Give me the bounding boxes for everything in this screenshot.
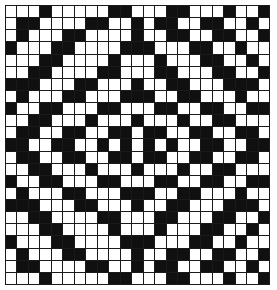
empty-cell <box>98 30 108 41</box>
empty-cell <box>63 224 73 235</box>
empty-cell <box>236 212 246 223</box>
filled-cell <box>213 103 223 114</box>
empty-cell <box>190 200 200 211</box>
empty-cell <box>6 261 16 272</box>
empty-cell <box>40 91 50 102</box>
empty-cell <box>86 103 96 114</box>
filled-cell <box>224 249 234 260</box>
filled-cell <box>52 103 62 114</box>
empty-cell <box>259 42 269 53</box>
empty-cell <box>236 18 246 29</box>
filled-cell <box>224 79 234 90</box>
empty-cell <box>155 164 165 175</box>
empty-cell <box>75 139 85 150</box>
empty-cell <box>224 42 234 53</box>
filled-cell <box>144 236 154 247</box>
empty-cell <box>40 152 50 163</box>
filled-cell <box>6 200 16 211</box>
filled-cell <box>247 261 257 272</box>
filled-cell <box>40 164 50 175</box>
filled-cell <box>247 139 257 150</box>
empty-cell <box>167 42 177 53</box>
empty-cell <box>63 55 73 66</box>
filled-cell <box>213 30 223 41</box>
empty-cell <box>190 176 200 187</box>
filled-cell <box>132 261 142 272</box>
filled-cell <box>155 55 165 66</box>
empty-cell <box>121 67 131 78</box>
empty-cell <box>40 249 50 260</box>
empty-cell <box>167 188 177 199</box>
filled-cell <box>132 79 142 90</box>
empty-cell <box>144 18 154 29</box>
filled-cell <box>40 55 50 66</box>
empty-cell <box>259 91 269 102</box>
filled-cell <box>213 55 223 66</box>
empty-cell <box>98 164 108 175</box>
empty-cell <box>17 236 27 247</box>
filled-cell <box>155 18 165 29</box>
filled-cell <box>178 249 188 260</box>
filled-cell <box>121 139 131 150</box>
filled-cell <box>86 18 96 29</box>
empty-cell <box>178 261 188 272</box>
empty-cell <box>259 115 269 126</box>
empty-cell <box>178 42 188 53</box>
empty-cell <box>132 139 142 150</box>
empty-cell <box>109 30 119 41</box>
filled-cell <box>167 18 177 29</box>
empty-cell <box>201 200 211 211</box>
empty-cell <box>224 55 234 66</box>
filled-cell <box>259 6 269 17</box>
empty-cell <box>52 6 62 17</box>
empty-cell <box>190 224 200 235</box>
empty-cell <box>201 164 211 175</box>
empty-cell <box>109 164 119 175</box>
empty-cell <box>132 152 142 163</box>
empty-cell <box>201 115 211 126</box>
filled-cell <box>247 79 257 90</box>
filled-cell <box>75 152 85 163</box>
filled-cell <box>201 18 211 29</box>
empty-cell <box>40 188 50 199</box>
filled-cell <box>236 236 246 247</box>
empty-cell <box>121 261 131 272</box>
filled-cell <box>121 188 131 199</box>
empty-cell <box>98 273 108 284</box>
filled-cell <box>132 249 142 260</box>
empty-cell <box>144 164 154 175</box>
empty-cell <box>6 224 16 235</box>
empty-cell <box>144 103 154 114</box>
filled-cell <box>167 139 177 150</box>
empty-cell <box>17 212 27 223</box>
empty-cell <box>224 236 234 247</box>
empty-cell <box>236 115 246 126</box>
empty-cell <box>109 249 119 260</box>
empty-cell <box>29 236 39 247</box>
empty-cell <box>86 176 96 187</box>
empty-cell <box>236 224 246 235</box>
filled-cell <box>29 79 39 90</box>
filled-cell <box>259 139 269 150</box>
empty-cell <box>6 273 16 284</box>
empty-cell <box>52 79 62 90</box>
filled-cell <box>132 236 142 247</box>
filled-cell <box>40 115 50 126</box>
empty-cell <box>190 139 200 150</box>
empty-cell <box>236 249 246 260</box>
filled-cell <box>190 91 200 102</box>
filled-cell <box>86 115 96 126</box>
empty-cell <box>6 91 16 102</box>
empty-cell <box>29 6 39 17</box>
empty-cell <box>224 127 234 138</box>
filled-cell <box>201 55 211 66</box>
empty-cell <box>6 30 16 41</box>
empty-cell <box>213 152 223 163</box>
empty-cell <box>109 42 119 53</box>
empty-cell <box>190 103 200 114</box>
filled-cell <box>155 127 165 138</box>
empty-cell <box>52 127 62 138</box>
empty-cell <box>259 152 269 163</box>
empty-cell <box>17 164 27 175</box>
empty-cell <box>178 55 188 66</box>
